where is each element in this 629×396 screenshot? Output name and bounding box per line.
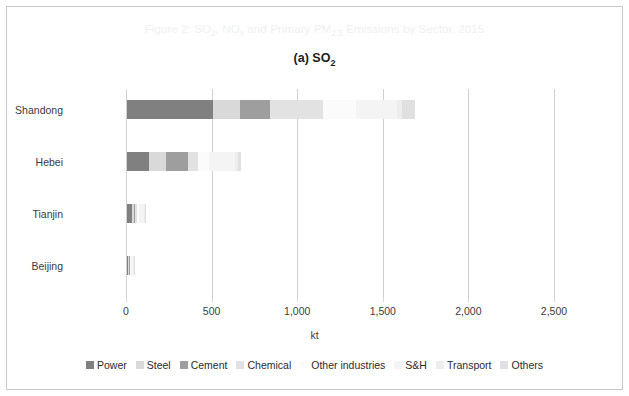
x-tick-label-2000: 2,000 [455,305,481,317]
bar-segment-tianjin-others [145,204,146,223]
bar-shandong [127,100,415,119]
gridline-2000 [468,89,469,297]
x-tick-2000 [468,297,469,302]
x-tick-2500 [554,297,555,302]
legend-item-steel[interactable]: Steel [136,359,171,371]
gridline-500 [212,89,213,297]
figure-subtitle-sub: 2 [330,58,335,68]
x-tick-label-1000: 1,000 [284,305,310,317]
bar-segment-shandong-cement [240,100,270,119]
bar-segment-shandong-s-h [356,100,397,119]
legend-label: Steel [147,359,171,371]
bar-beijing [127,256,135,275]
legend-swatch-icon-transport [436,361,444,369]
legend-item-s-h[interactable]: S&H [394,359,427,371]
legend-swatch-icon-s-h [394,361,402,369]
bar-segment-hebei-others [238,152,241,171]
x-tick-0 [126,297,127,302]
bar-segment-shandong-other-industries [323,100,356,119]
legend-swatch-icon-chemical [236,361,244,369]
legend-item-chemical[interactable]: Chemical [236,359,291,371]
bar-segment-shandong-chemical [270,100,323,119]
figure-title-post: Emissions by Sector, 2015 [343,23,484,35]
legend-item-transport[interactable]: Transport [436,359,492,371]
plot-area: 05001,0001,5002,0002,500 [126,89,561,297]
chart-legend: PowerSteelCementChemicalOther industries… [7,359,622,371]
x-tick-label-1500: 1,500 [370,305,396,317]
legend-label: Power [97,359,127,371]
figure-subtitle-pre: (a) SO [294,51,331,65]
y-axis-label-tianjin: Tianjin [32,208,63,220]
bar-segment-hebei-chemical [188,152,198,171]
bar-hebei [127,152,241,171]
legend-label: Other industries [311,359,385,371]
figure-title: Figure 2: SO2, NOx and Primary PM2.5 Emi… [7,23,622,38]
bar-segment-shandong-power [127,100,213,119]
bar-segment-hebei-steel [149,152,165,171]
legend-label: Transport [447,359,492,371]
y-axis-label-beijing: Beijing [31,260,63,272]
x-tick-label-0: 0 [123,305,129,317]
legend-swatch-icon-others [500,361,508,369]
bar-segment-hebei-cement [166,152,188,171]
x-tick-1500 [383,297,384,302]
gridline-2500 [554,89,555,297]
gridline-1500 [383,89,384,297]
figure-title-mid2: and Primary PM [244,23,331,35]
legend-swatch-icon-other-industries [300,361,308,369]
y-axis-labels: ShandongHebeiTianjinBeijing [6,89,63,297]
bar-segment-shandong-steel [213,100,240,119]
legend-swatch-icon-power [86,361,94,369]
legend-item-other-industries[interactable]: Other industries [300,359,385,371]
x-tick-1000 [297,297,298,302]
legend-swatch-icon-cement [180,361,188,369]
legend-label: Chemical [247,359,291,371]
legend-item-power[interactable]: Power [86,359,127,371]
legend-item-cement[interactable]: Cement [180,359,228,371]
x-axis-title: kt [7,329,622,341]
bar-segment-hebei-s-h [209,152,235,171]
legend-swatch-icon-steel [136,361,144,369]
legend-label: Others [511,359,543,371]
figure-panel: Figure 2: SO2, NOx and Primary PM2.5 Emi… [6,6,623,390]
y-axis-label-shandong: Shandong [15,104,63,116]
legend-label: S&H [405,359,427,371]
x-tick-label-500: 500 [203,305,221,317]
bar-segment-hebei-other-industries [198,152,209,171]
figure-subtitle: (a) SO2 [7,51,622,68]
x-tick-500 [212,297,213,302]
figure-title-mid: , NO [216,23,240,35]
bar-segment-shandong-others [402,100,415,119]
bar-tianjin [127,204,146,223]
bar-segment-beijing-others [134,256,135,275]
x-tick-label-2500: 2,500 [541,305,567,317]
legend-label: Cement [191,359,228,371]
bar-segment-hebei-power [127,152,149,171]
y-axis-label-hebei: Hebei [36,156,63,168]
gridline-1000 [297,89,298,297]
figure-title-sub-pm25: 2.5 [331,29,343,38]
figure-title-pre: Figure 2: SO [145,23,211,35]
legend-item-others[interactable]: Others [500,359,543,371]
